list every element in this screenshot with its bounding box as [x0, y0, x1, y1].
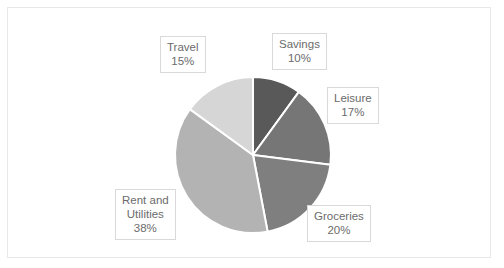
pie-label-travel-name: Travel	[167, 40, 199, 54]
pie-label-travel[interactable]: Travel 15%	[160, 36, 206, 73]
pie-chart-plot-area	[0, 0, 504, 268]
pie-label-groceries-name: Groceries	[314, 209, 364, 223]
pie-label-savings-name: Savings	[279, 37, 320, 51]
pie-label-rent-name-line1: Rent and	[122, 193, 169, 207]
pie-label-leisure[interactable]: Leisure 17%	[327, 87, 379, 124]
pie-label-rent-name-line2: Utilities	[122, 207, 169, 221]
pie-label-rent-value: 38%	[122, 221, 169, 235]
chart-screenshot: Travel 15% Savings 10% Leisure 17% Groce…	[0, 0, 504, 268]
pie-label-groceries[interactable]: Groceries 20%	[307, 205, 371, 242]
pie-label-leisure-name: Leisure	[334, 91, 372, 105]
pie-label-rent-and-utilities[interactable]: Rent and Utilities 38%	[115, 189, 176, 240]
pie-label-savings-value: 10%	[279, 51, 320, 65]
pie-label-leisure-value: 17%	[334, 105, 372, 119]
pie-label-savings[interactable]: Savings 10%	[272, 33, 327, 70]
pie-label-travel-value: 15%	[167, 54, 199, 68]
pie-label-groceries-value: 20%	[314, 223, 364, 237]
pie-chart-svg	[0, 0, 504, 268]
